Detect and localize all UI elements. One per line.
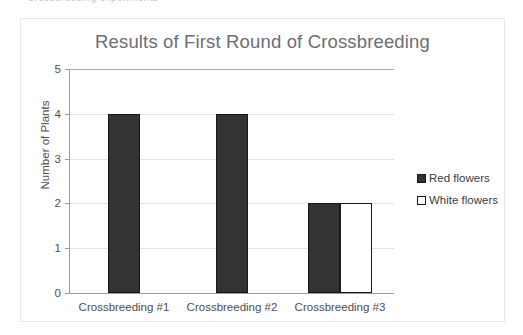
y-tick-mark-0 [65, 293, 70, 294]
x-axis-label-2: Crossbreeding #2 [187, 301, 278, 313]
y-tick-mark-5 [65, 69, 70, 70]
chart-title: Results of First Round of Crossbreeding [21, 31, 504, 53]
bar-2-red-flowers [216, 114, 248, 293]
y-axis-title: Number of Plants [39, 75, 51, 215]
gridline-5 [70, 69, 394, 70]
legend-swatch-icon-red [417, 174, 426, 183]
y-tick-mark-4 [65, 114, 70, 115]
cropped-header-text: Crossbreeding experiments [0, 0, 523, 12]
chart-container: Results of First Round of Crossbreeding … [20, 18, 505, 322]
legend-label: Red flowers [429, 172, 490, 184]
y-tick-label-3: 3 [55, 153, 61, 165]
y-tick-label-0: 0 [55, 287, 61, 299]
bar-3-red-flowers [308, 203, 340, 293]
y-tick-mark-2 [65, 203, 70, 204]
y-tick-mark-1 [65, 248, 70, 249]
y-tick-label-5: 5 [55, 63, 61, 75]
bar-1-red-flowers [108, 114, 140, 293]
legend-swatch-icon-white [417, 196, 426, 205]
chart-legend: Red flowersWhite flowers [417, 167, 503, 211]
x-axis-label-1: Crossbreeding #1 [79, 301, 170, 313]
x-axis-label-3: Crossbreeding #3 [295, 301, 386, 313]
legend-label: White flowers [429, 194, 498, 206]
y-tick-label-2: 2 [55, 197, 61, 209]
bar-3-white-flowers [340, 203, 372, 293]
legend-item-red-flowers[interactable]: Red flowers [417, 167, 503, 189]
plot-area: 012345Crossbreeding #1Crossbreeding #2Cr… [69, 69, 394, 294]
cropped-header-text-label: Crossbreeding experiments [27, 0, 158, 3]
y-tick-mark-3 [65, 159, 70, 160]
y-tick-label-1: 1 [55, 242, 61, 254]
y-tick-label-4: 4 [55, 108, 61, 120]
legend-item-white-flowers[interactable]: White flowers [417, 189, 503, 211]
